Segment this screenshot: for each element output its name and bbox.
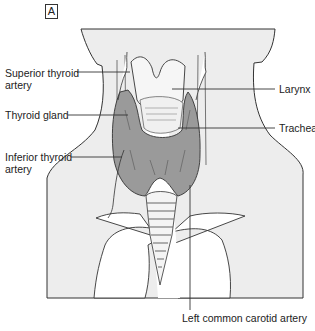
label-thyroid-gland: Thyroid gland [5,109,69,121]
label-inferior-thyroid-artery: Inferior thyroid artery [5,151,72,175]
label-superior-thyroid-artery: Superior thyroid artery [5,67,79,91]
label-trachea: Trachea [279,122,315,134]
label-left-common-carotid-artery: Left common carotid artery [182,312,307,324]
label-larynx: Larynx [279,83,311,95]
